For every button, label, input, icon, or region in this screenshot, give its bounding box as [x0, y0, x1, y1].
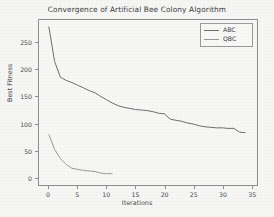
x-tick-label: 35	[248, 191, 256, 198]
x-tick-mark	[252, 186, 253, 189]
series-line-qbc	[49, 134, 113, 173]
y-tick-label: 200	[0, 66, 32, 73]
x-tick-label: 30	[219, 191, 227, 198]
x-tick-mark	[135, 186, 136, 189]
x-tick-label: 25	[190, 191, 198, 198]
legend-label-abc: ABC	[223, 27, 236, 33]
legend-label-qbc: QBC	[223, 36, 236, 42]
y-tick-label: 150	[0, 93, 32, 100]
x-tick-mark	[165, 186, 166, 189]
y-tick-label: 100	[0, 120, 32, 127]
legend-item-abc[interactable]: ABC	[204, 26, 249, 35]
x-tick-label: 0	[46, 191, 50, 198]
x-tick-label: 20	[161, 191, 169, 198]
x-tick-mark	[106, 186, 107, 189]
x-tick-label: 10	[102, 191, 110, 198]
figure-canvas: Convergence of Artificial Bee Colony Alg…	[0, 0, 274, 217]
chart-title: Convergence of Artificial Bee Colony Alg…	[0, 5, 274, 14]
y-tick-label: 0	[0, 175, 32, 182]
x-tick-mark	[223, 186, 224, 189]
x-tick-mark	[48, 186, 49, 189]
legend-swatch-qbc	[204, 39, 219, 40]
x-tick-mark	[194, 186, 195, 189]
y-tick-label: 50	[0, 148, 32, 155]
x-tick-mark	[77, 186, 78, 189]
y-tick-label: 250	[0, 38, 32, 45]
x-tick-label: 5	[75, 191, 79, 198]
x-tick-label: 15	[132, 191, 140, 198]
legend-box: ABC QBC	[200, 23, 253, 47]
x-axis-label: Iterations	[0, 199, 274, 207]
legend-item-qbc[interactable]: QBC	[204, 35, 249, 44]
legend-swatch-abc	[204, 30, 219, 31]
